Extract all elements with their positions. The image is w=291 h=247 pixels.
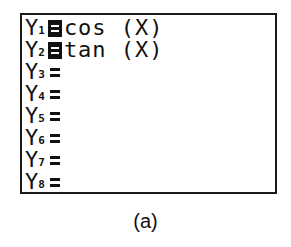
function-name: Y <box>25 61 37 83</box>
function-subscript: 5 <box>38 113 45 124</box>
equals-toggle[interactable] <box>48 108 62 125</box>
function-row-y6[interactable]: Y 6 <box>25 127 275 149</box>
function-row-y8[interactable]: Y 8 <box>25 171 275 193</box>
function-list: Y 1 cos (X) Y 2 tan (X) Y 3 Y 4 Y 5 <box>25 17 275 193</box>
function-expression[interactable]: tan (X) <box>64 39 164 61</box>
function-subscript: 6 <box>38 135 45 146</box>
function-subscript: 4 <box>38 91 45 102</box>
function-row-y5[interactable]: Y 5 <box>25 105 275 127</box>
function-name: Y <box>25 83 37 105</box>
function-name: Y <box>25 171 37 193</box>
equals-toggle[interactable] <box>48 86 62 103</box>
function-subscript: 7 <box>38 157 45 168</box>
calculator-screen: Y 1 cos (X) Y 2 tan (X) Y 3 Y 4 Y 5 <box>20 13 277 194</box>
equals-toggle-selected[interactable] <box>48 42 62 59</box>
equals-toggle[interactable] <box>48 174 62 191</box>
equals-toggle[interactable] <box>48 64 62 81</box>
function-subscript: 8 <box>38 179 45 190</box>
function-row-y4[interactable]: Y 4 <box>25 83 275 105</box>
equals-toggle[interactable] <box>48 130 62 147</box>
function-name: Y <box>25 39 37 61</box>
equals-toggle-selected[interactable] <box>48 20 62 37</box>
equals-toggle[interactable] <box>48 152 62 169</box>
function-row-y2[interactable]: Y 2 tan (X) <box>25 39 275 61</box>
function-row-y1[interactable]: Y 1 cos (X) <box>25 17 275 39</box>
function-name: Y <box>25 127 37 149</box>
function-name: Y <box>25 17 37 39</box>
function-subscript: 3 <box>38 69 45 80</box>
function-row-y3[interactable]: Y 3 <box>25 61 275 83</box>
function-name: Y <box>25 105 37 127</box>
function-name: Y <box>25 149 37 171</box>
function-subscript: 1 <box>38 25 45 36</box>
function-expression[interactable]: cos (X) <box>64 17 164 39</box>
function-row-y7[interactable]: Y 7 <box>25 149 275 171</box>
function-subscript: 2 <box>38 47 45 58</box>
figure-caption: (a) <box>0 210 291 233</box>
